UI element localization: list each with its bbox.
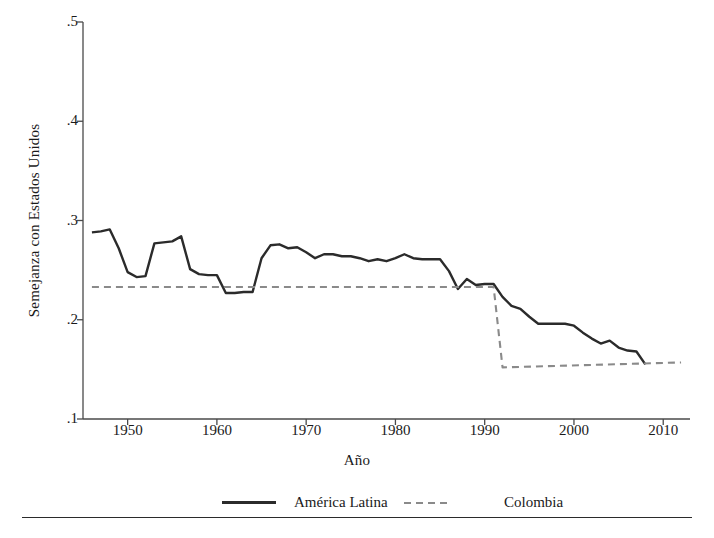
- legend-item-america-latina: América Latina: [294, 492, 388, 512]
- plot-area: [0, 0, 714, 538]
- chart-legend: América Latina Colombia: [0, 492, 714, 516]
- series-line-colombia: [92, 287, 681, 367]
- dashed-line-swatch: [404, 502, 452, 504]
- footer-divider: [22, 517, 692, 518]
- legend-item-colombia: Colombia: [504, 492, 563, 512]
- solid-line-swatch: [222, 501, 276, 504]
- data-series-group: [92, 229, 681, 367]
- series-line-amrica-latina: [92, 229, 645, 364]
- chart-figure: Semejanza con Estados Unidos Año .1.2.3.…: [0, 0, 714, 538]
